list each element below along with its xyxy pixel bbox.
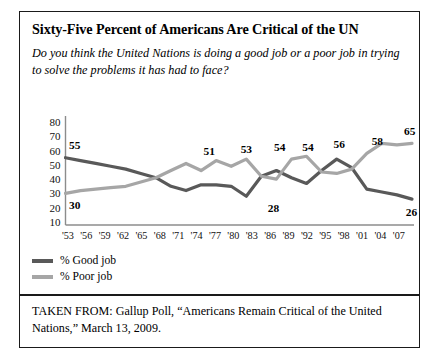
data-point-label: 58 [372,135,384,147]
x-tick-label: '80 [227,230,239,241]
source-caption: TAKEN FROM: Gallup Poll, “Americans Rema… [32,303,408,337]
data-point-label: 30 [69,199,81,211]
x-tick-label: '53 [62,230,74,241]
data-point-label: 55 [69,139,81,151]
legend-item-good-job: % Good job [32,254,332,268]
x-tick-label: '07 [393,230,405,241]
x-tick-label: '56 [80,230,92,241]
y-tick-label: 30 [50,187,62,199]
chart-svg: 1020304050607080 '53'56'59'62'65'68'71'7… [20,100,419,250]
x-tick-label: '98 [338,230,350,241]
x-tick-label: '89 [283,230,295,241]
line-chart: 1020304050607080 '53'56'59'62'65'68'71'7… [20,100,419,250]
y-tick-label: 10 [50,216,62,228]
x-tick-label: '04 [374,230,386,241]
y-axis-tick-labels: 1020304050607080 [50,116,62,228]
caption-divider [20,294,419,296]
page-title: Sixty-Five Percent of Americans Are Crit… [32,21,412,37]
data-point-label: 26 [406,206,418,218]
x-tick-label: '59 [99,230,111,241]
x-tick-label: '86 [264,230,276,241]
x-tick-label: '65 [135,230,147,241]
y-tick-label: 50 [50,159,62,171]
data-point-label: 51 [204,145,216,157]
legend-item-poor-job: % Poor job [32,270,332,284]
legend-swatch-good-job [32,259,53,264]
y-tick-label: 60 [50,145,62,157]
x-tick-label: '01 [356,230,368,241]
data-point-labels: 5530515354285456586526 [69,125,418,218]
legend-label-poor-job: % Poor job [60,271,112,283]
survey-question-subtitle: Do you think the United Nations is doing… [32,45,406,79]
legend-swatch-poor-job [32,275,53,280]
x-tick-label: '62 [117,230,129,241]
data-series-group [66,143,413,199]
x-tick-label: '92 [301,230,313,241]
data-point-label: 28 [268,202,280,214]
chart-legend: % Good job % Poor job [32,254,332,286]
x-tick-label: '68 [154,230,166,241]
figure-container: Sixty-Five Percent of Americans Are Crit… [19,11,420,348]
data-point-label: 53 [241,143,253,155]
legend-label-good-job: % Good job [60,255,116,267]
x-tick-label: '83 [246,230,258,241]
data-point-label: 56 [334,138,346,150]
x-axis-tick-labels: '53'56'59'62'65'68'71'74'77'80'83'86'89'… [62,230,405,241]
data-point-label: 54 [302,141,314,153]
data-point-label: 54 [274,141,286,153]
x-tick-label: '74 [191,230,203,241]
x-tick-label: '77 [209,230,221,241]
data-point-label: 65 [404,125,416,137]
y-tick-label: 70 [50,130,62,142]
y-tick-label: 40 [50,173,62,185]
y-tick-label: 80 [50,116,62,128]
x-tick-label: '71 [172,230,184,241]
x-tick-label: '95 [319,230,331,241]
y-tick-label: 20 [50,202,62,214]
